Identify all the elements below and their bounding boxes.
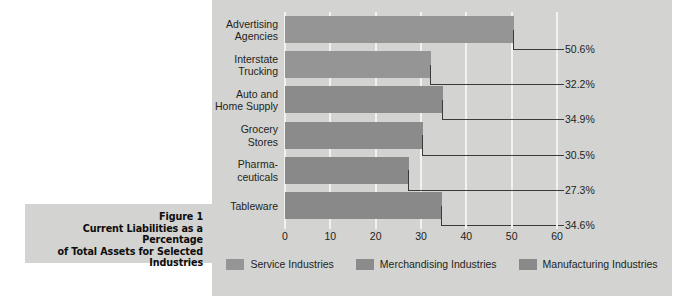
bar-value-label: 50.6% (565, 43, 595, 55)
chart-legend: Service IndustriesMerchandising Industri… (212, 258, 672, 270)
figure-title-line-1: Current Liabilities as a Percentage (31, 223, 203, 246)
x-axis: 0102030405060 (285, 224, 557, 246)
bar-category-label: InterstateTrucking (234, 52, 278, 77)
legend-item-merchandising[interactable]: Merchandising Industries (356, 258, 497, 270)
leader-line (430, 84, 564, 85)
bar-category-label-line: Home Supply (215, 100, 278, 113)
figure-title-line-2: of Total Assets for Selected (31, 246, 203, 258)
x-tick-mark-0 (284, 224, 286, 229)
bar-value-label: 30.5% (565, 149, 595, 161)
bar-category-label-line: Stores (241, 135, 278, 148)
legend-label: Service Industries (250, 258, 333, 270)
bar[interactable] (285, 16, 514, 43)
legend-swatch-icon (356, 259, 374, 270)
bar-row: InterstateTrucking32.2% (285, 51, 557, 78)
bar-category-label: Auto andHome Supply (215, 87, 278, 112)
bar-row: Auto andHome Supply34.9% (285, 86, 557, 113)
leader-stub (408, 170, 409, 190)
bar-category-label-line: Agencies (226, 30, 278, 43)
figure-panel: AdvertisingAgencies50.6%InterstateTrucki… (212, 0, 672, 296)
bar-value-label: 27.3% (565, 184, 595, 196)
x-tick-mark-60 (556, 224, 558, 229)
legend-item-service[interactable]: Service Industries (226, 258, 333, 270)
legend-swatch-icon (519, 259, 537, 270)
x-tick-label: 0 (282, 230, 288, 242)
bar-value-label: 34.9% (565, 113, 595, 125)
bar[interactable] (285, 157, 409, 184)
x-tick-label: 60 (551, 230, 563, 242)
legend-swatch-icon (226, 259, 244, 270)
x-tick-mark-20 (375, 224, 377, 229)
leader-stub (430, 65, 431, 85)
bar[interactable] (285, 122, 423, 149)
bar-category-label-line: Trucking (234, 65, 278, 78)
x-tick-label: 10 (324, 230, 336, 242)
bar-row: AdvertisingAgencies50.6% (285, 16, 557, 43)
bar[interactable] (285, 86, 443, 113)
x-tick-mark-50 (511, 224, 513, 229)
x-tick-label: 20 (370, 230, 382, 242)
leader-line (408, 190, 564, 191)
leader-line (442, 119, 564, 120)
bar-category-label-line: Auto and (215, 87, 278, 100)
x-tick-mark-40 (465, 224, 467, 229)
leader-stub (513, 30, 514, 50)
legend-label: Manufacturing Industries (543, 258, 658, 270)
figure-title-line-3: Industries (31, 257, 203, 269)
leader-line (422, 155, 564, 156)
leader-line (513, 49, 564, 50)
bar-category-label-line: Interstate (234, 52, 278, 65)
figure-caption: Figure 1 Current Liabilities as a Percen… (25, 204, 212, 263)
bar-category-label-line: Pharma- (237, 158, 278, 171)
x-tick-label: 40 (460, 230, 472, 242)
bar-value-label: 32.2% (565, 78, 595, 90)
bar-row: Pharma-ceuticals27.3% (285, 157, 557, 184)
bar[interactable] (285, 51, 431, 78)
x-tick-label: 50 (506, 230, 518, 242)
bar-value-label: 34.6% (565, 219, 595, 231)
plot-area: AdvertisingAgencies50.6%InterstateTrucki… (285, 12, 557, 224)
bar-category-label: AdvertisingAgencies (226, 17, 278, 42)
bar-category-label-line: Advertising (226, 17, 278, 30)
bar-category-label: Tableware (230, 199, 278, 212)
bar-row: GroceryStores30.5% (285, 122, 557, 149)
figure-number: Figure 1 (31, 211, 203, 223)
leader-stub (422, 135, 423, 155)
x-tick-label: 30 (415, 230, 427, 242)
leader-stub (442, 100, 443, 120)
x-tick-mark-10 (329, 224, 331, 229)
bar[interactable] (285, 192, 442, 219)
bar-category-label-line: Grocery (241, 123, 278, 136)
legend-label: Merchandising Industries (380, 258, 497, 270)
bar-row: Tableware34.6% (285, 192, 557, 219)
x-tick-mark-30 (420, 224, 422, 229)
bar-category-label-line: Tableware (230, 199, 278, 212)
bar-category-label: Pharma-ceuticals (237, 158, 278, 183)
bar-category-label: GroceryStores (241, 123, 278, 148)
legend-item-manufacturing[interactable]: Manufacturing Industries (519, 258, 658, 270)
bar-category-label-line: ceuticals (237, 170, 278, 183)
leader-stub (441, 206, 442, 226)
